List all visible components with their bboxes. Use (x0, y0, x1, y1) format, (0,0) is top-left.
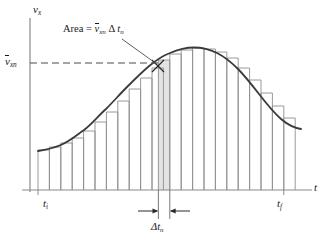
area-annotation: Area = vxn Δ tn (63, 24, 124, 36)
x-axis-label: t (314, 182, 317, 193)
delta-t-label-main: Δt (151, 221, 160, 232)
area-annotation-prefix: Area = (63, 23, 95, 34)
delta-t-right-arrowhead-icon (170, 208, 176, 213)
velocity-time-area-figure: vx vxn Area = vxn Δ tn ti tf t Δtn (0, 0, 326, 238)
area-annotation-time-sub: n (120, 28, 123, 35)
area-annotation-delta-icon: Δ (106, 23, 117, 34)
y-axis-label: vx (33, 4, 41, 17)
x-axis-label-main: t (314, 181, 317, 193)
area-annotation-velocity: v (95, 24, 100, 35)
mean-velocity-label: vxn (5, 56, 17, 69)
delta-t-label-sub: n (160, 226, 163, 233)
t-initial-label: ti (43, 198, 48, 211)
mean-velocity-label-main: v (5, 56, 10, 67)
mean-velocity-label-sub: xn (10, 61, 17, 69)
t-final-label-sub: f (280, 203, 282, 211)
y-axis-label-sub: x (38, 9, 41, 17)
delta-t-left-arrowhead-icon (153, 208, 159, 213)
annotation-leader-line (122, 39, 156, 64)
shaded-rectangle (158, 60, 169, 190)
delta-t-dimension (138, 190, 190, 219)
area-rectangles (38, 48, 295, 190)
axis-ticks (38, 190, 284, 195)
delta-t-label: Δtn (151, 222, 164, 234)
t-final-label: tf (277, 198, 282, 211)
t-initial-label-sub: i (46, 203, 48, 211)
